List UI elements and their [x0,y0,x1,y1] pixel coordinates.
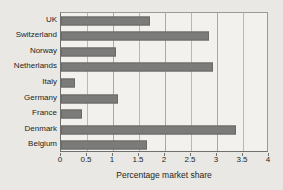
bar-slot [61,106,267,122]
bars-layer [61,13,267,151]
bar [61,141,147,150]
x-tick-label: 3.5 [236,156,247,164]
bar-chart: UKSwitzerlandNorwayNetherlandsItalyGerma… [0,0,283,190]
x-tick-label: 2.5 [184,156,195,164]
x-axis-ticks: 00.511.522.533.54 [60,153,268,165]
y-axis-label-netherlands: Netherlands [0,62,57,70]
bar-slot [61,44,267,60]
bar [61,63,213,72]
bar-slot [61,122,267,138]
x-tick-label: 1 [110,156,114,164]
bar [61,78,75,87]
y-axis-label-switzerland: Switzerland [0,31,57,39]
y-axis-label-denmark: Denmark [0,125,57,133]
y-axis-label-italy: Italy [0,78,57,86]
bar-slot [61,13,267,29]
x-tick-label: 4 [266,156,270,164]
x-tick-label: 3 [214,156,218,164]
x-tick-label: 0.5 [80,156,91,164]
y-axis-label-uk: UK [0,16,57,24]
x-tick-label: 2 [162,156,166,164]
bar-slot [61,60,267,76]
bar-slot [61,29,267,45]
bar [61,94,118,103]
bar [61,110,82,119]
y-axis-category-labels: UKSwitzerlandNorwayNetherlandsItalyGerma… [0,12,57,152]
y-axis-label-belgium: Belgium [0,140,57,148]
plot-area [60,12,268,152]
bar [61,47,116,56]
y-axis-label-france: France [0,109,57,117]
x-tick-label: 0 [58,156,62,164]
bar [61,32,209,41]
bar-slot [61,75,267,91]
x-axis-title: Percentage market share [60,170,268,180]
bar [61,125,236,134]
bar-slot [61,137,267,153]
y-axis-label-norway: Norway [0,47,57,55]
bar [61,16,150,25]
x-tick-label: 1.5 [132,156,143,164]
bar-slot [61,91,267,107]
y-axis-label-germany: Germany [0,94,57,102]
